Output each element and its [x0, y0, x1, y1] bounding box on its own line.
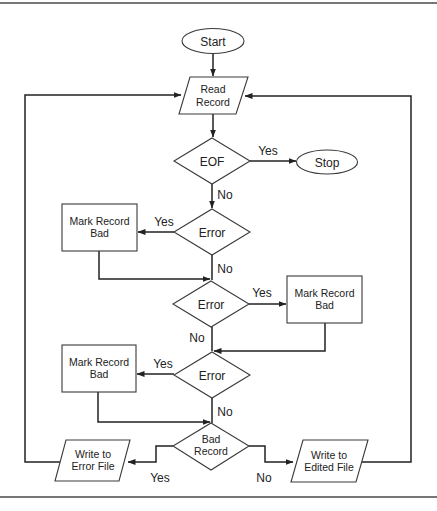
edge-label-error3-no: No	[217, 405, 233, 419]
svg-text:Error: Error	[199, 369, 226, 383]
svg-text:Mark Record: Mark Record	[69, 215, 129, 227]
flowchart: Start Read Record EOF Yes No Stop Error …	[0, 0, 437, 511]
node-bad-record-decision: Bad Record	[173, 423, 249, 470]
edge-label-eof-yes: Yes	[258, 144, 278, 158]
svg-text:Bad: Bad	[315, 299, 334, 311]
svg-text:Record: Record	[194, 445, 228, 457]
node-read-record: Read Record	[179, 77, 248, 114]
svg-text:Error: Error	[198, 298, 225, 312]
node-stop: Stop	[297, 150, 358, 174]
node-error-decision-3: Error	[174, 352, 250, 398]
node-mark-record-bad-1: Mark Record Bad	[62, 204, 137, 251]
svg-text:Bad: Bad	[90, 368, 109, 380]
svg-text:Mark Record: Mark Record	[294, 287, 354, 299]
svg-text:Start: Start	[200, 35, 226, 49]
node-error-decision-1: Error	[174, 209, 250, 255]
svg-text:Error: Error	[199, 226, 226, 240]
node-write-edited-file: Write to Edited File	[291, 440, 368, 482]
svg-text:Bad: Bad	[90, 227, 109, 239]
edge-label-error2-no: No	[189, 331, 205, 345]
node-mark-record-bad-2: Mark Record Bad	[287, 276, 362, 323]
edge-label-error1-no: No	[217, 262, 233, 276]
svg-text:Error File: Error File	[71, 460, 114, 472]
svg-text:Read: Read	[200, 83, 225, 95]
svg-text:Write to: Write to	[311, 449, 347, 461]
svg-text:Write to: Write to	[75, 448, 111, 460]
edge-label-error2-yes: Yes	[252, 286, 272, 300]
node-write-error-file: Write to Error File	[55, 440, 130, 481]
edge-label-error1-yes: Yes	[154, 215, 174, 229]
node-error-decision-2: Error	[173, 281, 249, 327]
svg-text:Bad: Bad	[202, 433, 221, 445]
edge-label-eof-no: No	[217, 188, 233, 202]
svg-text:Edited File: Edited File	[304, 461, 354, 473]
svg-text:Stop: Stop	[315, 156, 340, 170]
edge-label-bad-no: No	[256, 471, 272, 485]
svg-text:EOF: EOF	[200, 155, 225, 169]
svg-text:Mark Record: Mark Record	[69, 356, 129, 368]
svg-text:Record: Record	[196, 96, 230, 108]
node-start: Start	[182, 29, 244, 54]
node-eof-decision: EOF	[174, 138, 250, 184]
edge-label-error3-yes: Yes	[153, 357, 173, 371]
node-mark-record-bad-3: Mark Record Bad	[62, 345, 136, 392]
edge-label-bad-yes: Yes	[150, 471, 170, 485]
connectors	[25, 54, 411, 462]
